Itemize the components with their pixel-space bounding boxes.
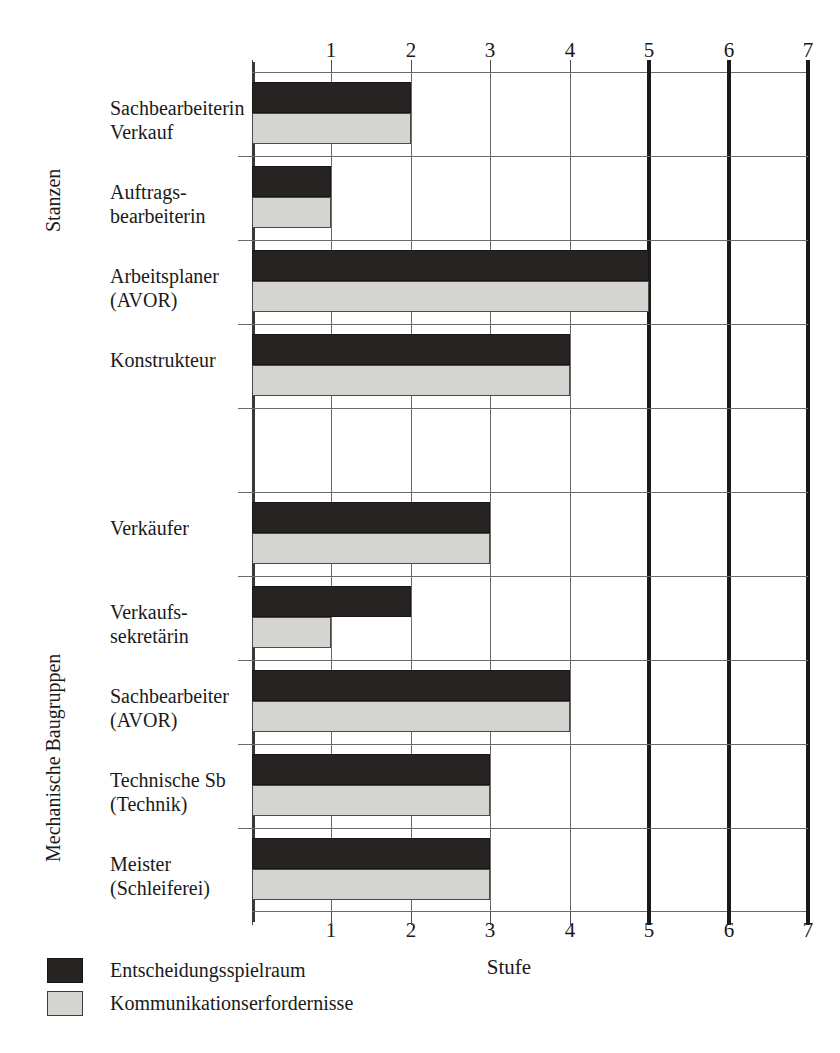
- row-label-7-line1: Sachbearbeiter: [110, 684, 245, 708]
- row-label-3: Konstrukteur: [110, 348, 245, 372]
- row-label-3-line1: Konstrukteur: [110, 348, 245, 372]
- bar-light-9: [252, 869, 490, 900]
- legend-label-dark: Entscheidungsspielraum: [110, 959, 306, 982]
- bar-dark-3: [252, 334, 570, 365]
- bar-row-4-empty: [252, 408, 808, 492]
- group-label-stanzen: Stanzen: [42, 169, 65, 232]
- row-label-7: Sachbearbeiter (AVOR): [110, 684, 245, 733]
- bar-row-7: [252, 660, 808, 744]
- bar-row-2: [252, 240, 808, 324]
- xtick-top-1: 1: [311, 40, 351, 61]
- bar-dark-2: [252, 250, 649, 281]
- xtick-top-5: 5: [629, 40, 669, 61]
- bar-dark-7: [252, 670, 570, 701]
- bar-row-1: [252, 156, 808, 240]
- bar-light-3: [252, 365, 570, 396]
- row-label-0: Sachbearbeiterin Verkauf: [110, 96, 245, 145]
- row-label-9-line2: (Schleiferei): [110, 876, 245, 900]
- plot-area: [252, 72, 808, 912]
- xtick-top-4: 4: [550, 40, 590, 61]
- bar-light-7: [252, 701, 570, 732]
- row-label-0-line2: Verkauf: [110, 120, 245, 144]
- xtick-top-7: 7: [788, 40, 828, 61]
- bar-dark-9: [252, 838, 490, 869]
- legend-swatch-light: [47, 991, 83, 1016]
- xtick-top-2: 2: [391, 40, 431, 61]
- xtick-top-6: 6: [709, 40, 749, 61]
- bar-row-5: [252, 492, 808, 576]
- row-label-8-line1: Technische Sb: [110, 768, 245, 792]
- row-label-2: Arbeitsplaner (AVOR): [110, 264, 245, 313]
- tickmark-bottom-1: [331, 912, 332, 925]
- row-label-5: Verkäufer: [110, 516, 245, 540]
- legend-item-kommunikationserfordernisse: Kommunikationserfordernisse: [47, 987, 353, 1020]
- bar-light-8: [252, 785, 490, 816]
- bar-dark-8: [252, 754, 490, 785]
- bar-light-2: [252, 281, 649, 312]
- tickmark-bottom-6: [727, 912, 731, 925]
- tickmark-bottom-3: [490, 912, 491, 925]
- bar-light-5: [252, 533, 490, 564]
- row-label-1-line2: bearbeiterin: [110, 204, 245, 228]
- row-label-1: Auftrags- bearbeiterin: [110, 180, 245, 229]
- row-label-9-line1: Meister: [110, 852, 245, 876]
- row-label-7-line2: (AVOR): [110, 708, 245, 732]
- bar-light-0: [252, 113, 411, 144]
- bar-row-9: [252, 828, 808, 912]
- row-label-2-line1: Arbeitsplaner: [110, 264, 245, 288]
- row-label-5-line1: Verkäufer: [110, 516, 245, 540]
- legend-label-light: Kommunikationserfordernisse: [110, 992, 353, 1015]
- tickmark-bottom-5: [647, 912, 651, 925]
- row-label-2-line2: (AVOR): [110, 288, 245, 312]
- bar-dark-6: [252, 586, 411, 617]
- bar-light-6: [252, 617, 331, 648]
- bar-dark-0: [252, 82, 411, 113]
- xtick-top-3: 3: [470, 40, 510, 61]
- row-label-6: Verkaufs- sekretärin: [110, 600, 245, 649]
- bar-row-3: [252, 324, 808, 408]
- bar-row-0: [252, 72, 808, 156]
- bar-dark-1: [252, 166, 331, 197]
- row-label-8-line2: (Technik): [110, 792, 245, 816]
- bar-row-6: [252, 576, 808, 660]
- legend-item-entscheidungsspielraum: Entscheidungsspielraum: [47, 954, 353, 987]
- row-label-1-line1: Auftrags-: [110, 180, 245, 204]
- tickmark-bottom-7: [806, 912, 810, 925]
- row-label-9: Meister (Schleiferei): [110, 852, 245, 901]
- tickmark-bottom-2: [411, 912, 412, 925]
- row-label-6-line1: Verkaufs-: [110, 600, 245, 624]
- group-label-mechanische-baugruppen: Mechanische Baugruppen: [42, 654, 65, 862]
- row-label-0-line1: Sachbearbeiterin: [110, 96, 245, 120]
- row-label-6-line2: sekretärin: [110, 624, 245, 648]
- x-axis-title: Stufe: [449, 955, 569, 980]
- legend-swatch-dark: [47, 958, 83, 983]
- bar-row-8: [252, 744, 808, 828]
- legend: Entscheidungsspielraum Kommunikationserf…: [47, 954, 353, 1020]
- bar-chart: Stanzen Mechanische Baugruppen 1 2 3 4 5…: [0, 0, 840, 1053]
- bar-light-1: [252, 197, 331, 228]
- bar-dark-5: [252, 502, 490, 533]
- tickmark-bottom-4: [570, 912, 571, 925]
- row-label-8: Technische Sb (Technik): [110, 768, 245, 817]
